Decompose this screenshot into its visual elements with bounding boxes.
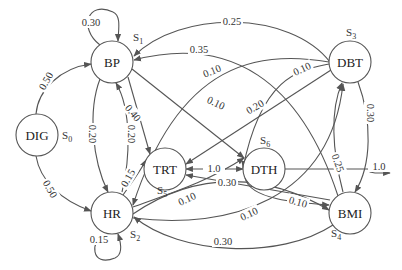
node-label: HR [103, 206, 121, 221]
edge-label: 0.30 [82, 17, 100, 28]
node-trt: TRTS5 [144, 148, 186, 199]
edge-label: 0.10 [288, 194, 309, 209]
edge-label-group: 0.20 [242, 96, 267, 117]
node-label: BP [104, 55, 120, 70]
edge-bmi-to-dbt [334, 83, 343, 192]
edge-bp-to-dth [132, 69, 244, 158]
edge-label-group: 0.20 [125, 123, 137, 145]
state-transition-diagram: 0.300.150.500.500.200.200.400.150.250.35… [0, 0, 402, 270]
state-label: S3 [346, 26, 356, 41]
edge-label-group: 0.10 [236, 204, 261, 224]
state-label: S0 [62, 129, 72, 144]
node-bp: BPS1 [91, 31, 143, 83]
state-label: S1 [133, 31, 143, 46]
node-bmi: BMIS4 [329, 192, 371, 242]
edge-label: 0.30 [218, 177, 236, 188]
edge-label-group: 0.30 [212, 235, 234, 247]
node-dig: DIGS0 [16, 114, 72, 156]
edge-label: 1.0 [207, 163, 220, 174]
state-subscript: 4 [337, 233, 341, 242]
node-label: BMI [338, 206, 363, 221]
edge-label-group: 0.30 [364, 102, 376, 124]
edge-label-group: 0.30 [216, 176, 238, 188]
edge-label-group: 1.0 [203, 162, 225, 174]
edge-label-group: 0.20 [86, 123, 98, 145]
edge-label: 0.30 [365, 104, 376, 122]
node-label: DBT [337, 55, 363, 70]
edge-label-group: 0.15 [88, 233, 110, 245]
edge-label-group: 0.25 [221, 15, 243, 27]
state-subscript: 3 [352, 32, 356, 41]
edge-label-group: 0.10 [174, 189, 199, 209]
state-label: S2 [130, 228, 140, 243]
state-subscript: 1 [139, 37, 143, 46]
state-subscript: 0 [68, 135, 72, 144]
node-label: TRT [153, 162, 177, 177]
edge-label-group: 0.50 [39, 176, 60, 201]
edge-label-group: 0.10 [203, 93, 228, 113]
edge-label-group: 0.10 [289, 59, 314, 79]
node-label: DTH [251, 162, 278, 177]
state-subscript: 6 [266, 140, 270, 149]
edge-label: 0.15 [90, 234, 108, 245]
edge-label: 0.20 [126, 125, 137, 143]
state-subscript: 5 [163, 190, 167, 199]
node-dbt: DBTS3 [329, 26, 371, 83]
edge-label: 1.0 [372, 161, 385, 172]
edge-label-group: 0.35 [188, 43, 210, 55]
node-label: DIG [25, 128, 48, 143]
edge-label-group: 0.30 [80, 16, 102, 28]
edge-label-group: 0.10 [200, 61, 225, 80]
edge-label-group: 1.0 [368, 160, 390, 172]
edge-label-group: 0.25 [329, 151, 348, 176]
edge-label: 0.25 [223, 16, 241, 27]
edge-label: 0.25 [330, 152, 347, 173]
state-subscript: 2 [136, 234, 140, 243]
edge-label: 0.30 [214, 236, 232, 247]
edge-label: 0.20 [87, 125, 98, 143]
edge-dbt-to-bp [134, 22, 330, 62]
edge-label: 0.35 [190, 44, 208, 55]
state-label: S6 [260, 134, 270, 149]
edge-dbt-to-bmi [355, 82, 368, 192]
